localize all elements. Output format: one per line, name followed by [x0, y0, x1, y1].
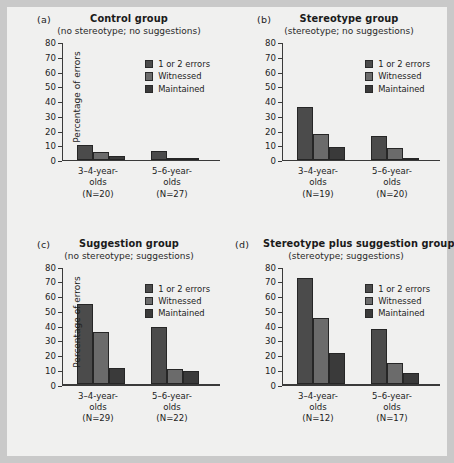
bar [151, 327, 167, 384]
legend-swatch-icon [365, 297, 374, 306]
y-axis-tick-label: 10 [45, 141, 56, 151]
y-axis-tick-label: 80 [265, 38, 276, 48]
x-axis-line [62, 384, 220, 385]
panel-title: Stereotype plus suggestion group [247, 238, 445, 250]
legend-swatch-icon [365, 309, 374, 318]
x-axis-group-label-line: 3–4-year- [288, 166, 348, 177]
x-axis-group-label-line: 3–4-year- [288, 391, 348, 402]
x-axis-group-label: 5–6-year-olds(N=22) [142, 391, 202, 425]
y-axis-tick-label: 0 [51, 381, 56, 391]
chart-panel-c: (c)Suggestion group(no stereotype; sugge… [7, 232, 227, 457]
chart-panel-a: (a)Control group(no stereotype; no sugge… [7, 7, 227, 232]
y-axis-tick [58, 117, 62, 118]
y-axis-tick-label: 50 [265, 307, 276, 317]
legend-label: Maintained [158, 84, 205, 94]
plot-area: 807060504030201003–4-year-olds(N=12)5–6-… [282, 268, 434, 386]
chart-panel-d: (d)Stereotype plus suggestion group(ster… [227, 232, 447, 457]
figure-canvas: (a)Control group(no stereotype; no sugge… [7, 7, 447, 456]
y-axis-title: Percentage of errors [72, 52, 82, 144]
chart-panel-b: (b)Stereotype group(stereotype; no sugge… [227, 7, 447, 232]
legend-label: 1 or 2 errors [378, 59, 430, 69]
x-axis-group-label-line: (N=19) [288, 189, 348, 200]
plot-area: 807060504030201003–4-year-olds(N=20)5–6-… [62, 43, 214, 161]
x-axis-group-label-line: 3–4-year- [68, 166, 128, 177]
legend-item: Witnessed [145, 71, 210, 81]
x-axis-group-label-line: (N=22) [142, 413, 202, 424]
x-axis-line [62, 160, 220, 161]
y-axis-tick-label: 20 [265, 351, 276, 361]
x-axis-group-label-line: olds [288, 177, 348, 188]
y-axis-tick-label: 40 [265, 322, 276, 332]
x-axis-group-label-line: 5–6-year- [362, 166, 422, 177]
y-axis-tick-label: 70 [265, 53, 276, 63]
legend-label: Maintained [158, 308, 205, 318]
legend-swatch-icon [365, 60, 374, 69]
legend-label: Witnessed [378, 71, 421, 81]
legend-label: 1 or 2 errors [158, 59, 210, 69]
y-axis-tick-label: 60 [265, 292, 276, 302]
y-axis-tick-label: 50 [45, 307, 56, 317]
y-axis-tick [58, 282, 62, 283]
x-axis-group-label: 3–4-year-olds(N=12) [288, 391, 348, 425]
legend-item: Witnessed [365, 296, 430, 306]
bar-group [371, 329, 419, 384]
panel-title: Stereotype group [253, 13, 445, 25]
y-axis-tick-label: 50 [265, 82, 276, 92]
bar [387, 363, 403, 384]
y-axis-tick-label: 20 [45, 127, 56, 137]
panel-title: Control group [33, 13, 225, 25]
x-axis-group-label-line: olds [142, 177, 202, 188]
panel-subtitle: (no stereotype; suggestions) [33, 250, 225, 262]
legend-item: Maintained [365, 308, 430, 318]
legend-swatch-icon [145, 309, 154, 318]
panel-subtitle: (no stereotype; no suggestions) [33, 25, 225, 37]
y-axis-tick-label: 60 [45, 292, 56, 302]
legend-swatch-icon [145, 85, 154, 94]
legend: 1 or 2 errorsWitnessedMaintained [365, 59, 430, 94]
y-axis-tick [278, 371, 282, 372]
y-axis-tick [58, 327, 62, 328]
y-axis-tick [278, 132, 282, 133]
y-axis-tick [278, 297, 282, 298]
y-axis-tick [278, 341, 282, 342]
y-axis-tick [58, 371, 62, 372]
legend-label: Witnessed [158, 296, 201, 306]
legend-label: Witnessed [378, 296, 421, 306]
bar [183, 371, 199, 384]
panel-heading: Stereotype plus suggestion group(stereot… [247, 238, 445, 262]
bar [151, 151, 167, 160]
x-axis-group-label-line: olds [68, 177, 128, 188]
legend-item: Maintained [145, 308, 210, 318]
y-axis-tick [278, 117, 282, 118]
bar [329, 353, 345, 384]
y-axis-tick [58, 132, 62, 133]
panel-heading: Control group(no stereotype; no suggesti… [33, 13, 225, 37]
x-axis-group-label-line: 3–4-year- [68, 391, 128, 402]
x-axis-group-label-line: (N=27) [142, 189, 202, 200]
legend-swatch-icon [145, 72, 154, 81]
bar [93, 332, 109, 384]
x-axis-group-label-line: (N=20) [362, 189, 422, 200]
y-axis-tick-label: 30 [45, 336, 56, 346]
bar [183, 158, 199, 160]
panel-title: Suggestion group [33, 238, 225, 250]
y-axis-tick [58, 87, 62, 88]
y-axis-tick [278, 161, 282, 162]
x-axis-group-label-line: (N=17) [362, 413, 422, 424]
bar [109, 156, 125, 160]
y-axis-tick-label: 20 [265, 127, 276, 137]
y-axis-tick [278, 327, 282, 328]
x-axis-group-label-line: olds [362, 402, 422, 413]
plot-area: 807060504030201003–4-year-olds(N=19)5–6-… [282, 43, 434, 161]
bar-group [297, 278, 345, 384]
legend-label: Witnessed [158, 71, 201, 81]
legend-label: 1 or 2 errors [378, 284, 430, 294]
y-axis-tick-label: 80 [265, 263, 276, 273]
y-axis-tick-label: 70 [265, 277, 276, 287]
y-axis-tick-label: 70 [45, 53, 56, 63]
y-axis-tick [58, 146, 62, 147]
bar [167, 369, 183, 384]
x-axis-group-label-line: 5–6-year- [142, 391, 202, 402]
legend-item: 1 or 2 errors [365, 284, 430, 294]
y-axis-tick-label: 50 [45, 82, 56, 92]
